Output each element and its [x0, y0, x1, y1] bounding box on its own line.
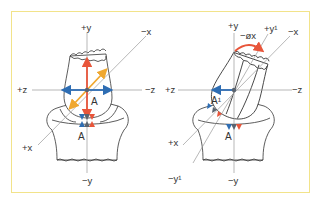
label-pos-x: +x	[168, 137, 179, 148]
label-point-upper: A¹	[211, 95, 222, 106]
label-neg-x: −x	[141, 26, 152, 37]
label-point-lower: A	[225, 131, 232, 142]
left-panel: +y −y +z −z −x +x A A	[17, 22, 156, 186]
label-neg-z: −z	[292, 84, 303, 95]
joint-axes-diagram: +y −y +z −z −x +x A A	[0, 0, 324, 206]
label-neg-y: −y	[228, 175, 239, 186]
label-pos-z: +z	[165, 84, 176, 95]
label-neg-y1: −y¹	[168, 173, 181, 184]
label-point-lower: A	[78, 131, 85, 142]
center-point	[85, 88, 89, 92]
label-pos-y1: +y¹	[264, 23, 277, 34]
right-panel: +y −øx +y¹ −x +z −z +x −y¹ −y A¹ A	[165, 20, 303, 186]
label-neg-x: −x	[288, 26, 299, 37]
upper-bone	[64, 49, 112, 118]
label-pos-z: +z	[17, 84, 28, 95]
center-point	[232, 88, 236, 92]
label-pos-y: +y	[81, 22, 92, 33]
rotation-arrow	[235, 45, 260, 51]
label-point-upper: A	[91, 96, 98, 107]
label-rotation: −øx	[240, 30, 256, 41]
label-pos-y: +y	[228, 20, 239, 31]
label-neg-z: −z	[145, 84, 156, 95]
label-pos-x: +x	[22, 142, 33, 153]
label-neg-y: −y	[82, 175, 93, 186]
